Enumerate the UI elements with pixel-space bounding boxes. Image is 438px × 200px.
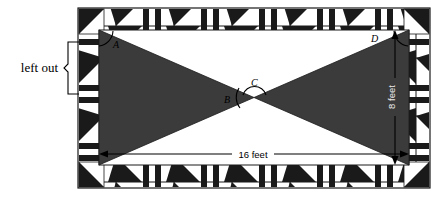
label-vertex-c: C: [251, 77, 258, 88]
label-vertex-a: A: [112, 39, 120, 50]
brace-icon: [64, 42, 72, 94]
label-vertex-b: B: [224, 94, 230, 105]
label-vertex-d: D: [370, 33, 379, 44]
label-height: 8 feet: [386, 85, 397, 109]
label-left-out: left out: [21, 60, 59, 75]
quilt-diagram-svg: A B C D 16 feet 8 feet left out: [0, 0, 438, 200]
border-band-bottom: [104, 162, 404, 187]
quilt-inner-field: [99, 30, 409, 165]
left-out-callout: left out: [21, 42, 79, 94]
diagram-canvas: A B C D 16 feet 8 feet left out: [0, 0, 438, 200]
label-width: 16 feet: [238, 149, 267, 160]
